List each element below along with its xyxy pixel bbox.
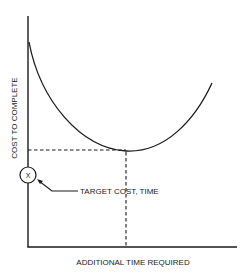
y-axis-label: COST TO COMPLETE [10,77,19,158]
cost-time-diagram: X TARGET COST, TIME COST TO COMPLETE ADD… [0,0,251,276]
x-axis-label: ADDITIONAL TIME REQUIRED [76,258,190,267]
target-marker-x: X [26,172,31,179]
cost-curve [29,42,212,151]
annotation-arrow [39,181,78,191]
annotation-label: TARGET COST, TIME [80,187,159,196]
